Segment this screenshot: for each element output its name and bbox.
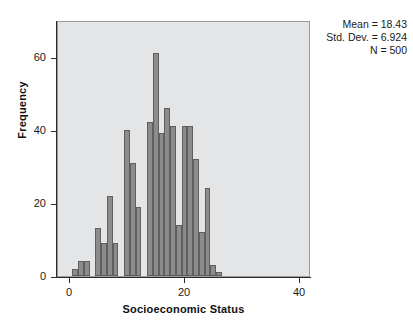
x-tick-mark bbox=[69, 278, 70, 283]
histogram-figure: 0204060 Frequency 02040 Socioeconomic St… bbox=[0, 0, 413, 329]
x-tick-label: 40 bbox=[284, 286, 314, 298]
x-axis-title: Socioeconomic Status bbox=[57, 303, 310, 315]
y-tick-mark bbox=[51, 58, 56, 59]
x-tick-mark bbox=[299, 278, 300, 283]
y-tick-label: 0 bbox=[16, 271, 46, 282]
y-axis-line bbox=[56, 21, 57, 278]
y-axis-title: Frequency bbox=[16, 50, 28, 170]
bars-layer bbox=[58, 22, 309, 276]
x-tick-label: 0 bbox=[54, 286, 84, 298]
histogram-bar bbox=[113, 243, 119, 276]
histogram-bar bbox=[216, 272, 222, 276]
histogram-bar bbox=[84, 261, 90, 276]
statistics-annotation: Mean = 18.43 Std. Dev. = 6.924 N = 500 bbox=[295, 18, 407, 57]
y-tick-mark bbox=[51, 131, 56, 132]
stat-stddev: Std. Dev. = 6.924 bbox=[295, 31, 407, 44]
stat-mean: Mean = 18.43 bbox=[295, 18, 407, 31]
stat-n: N = 500 bbox=[295, 44, 407, 57]
y-tick-label: 20 bbox=[16, 198, 46, 209]
histogram-bar bbox=[136, 207, 142, 276]
x-tick-label: 20 bbox=[169, 286, 199, 298]
plot-area bbox=[57, 21, 310, 277]
y-tick-mark bbox=[51, 204, 56, 205]
x-tick-mark bbox=[184, 278, 185, 283]
histogram-bar bbox=[205, 188, 211, 276]
